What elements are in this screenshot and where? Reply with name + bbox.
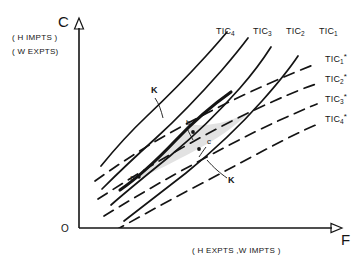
curve-tic-3-star	[104, 104, 317, 216]
curve-label-tic-3-star: TIC3*	[325, 93, 347, 106]
point-dot-c	[197, 147, 201, 151]
y-axis-letter: C	[58, 14, 69, 29]
curve-label-tic-1-sub: 1	[334, 30, 338, 37]
curve-label-tic-1-star-text: TIC	[325, 54, 340, 64]
curve-label-tic-3-sub: 3	[268, 30, 272, 37]
curve-label-tic-2-sub: 2	[301, 30, 305, 37]
point-label-a: a	[130, 174, 134, 182]
curve-label-tic-2-star-sup: *	[344, 72, 347, 81]
contract-curve-label-bottom: K	[228, 176, 235, 185]
foreign-tic-curves	[95, 65, 318, 231]
curve-label-tic-2-text: TIC	[286, 26, 301, 36]
curve-tic-3	[102, 38, 248, 189]
trade-indifference-diagram: C ( H IMPTS ) ( W EXPTS) O F ( H EXPTS ,…	[0, 0, 363, 268]
curve-label-tic-4-text: TIC	[216, 26, 231, 36]
curve-label-tic-1: TIC1	[319, 27, 338, 38]
curve-label-tic-2: TIC2	[286, 27, 305, 38]
curve-label-tic-4-star: TIC4*	[325, 113, 347, 126]
x-axis-caption: ( H EXPTS ,W IMPTS )	[192, 247, 281, 255]
x-axis-letter: F	[341, 232, 351, 247]
curve-label-tic-2-star: TIC2*	[325, 73, 347, 86]
curve-label-tic-4: TIC4	[216, 27, 235, 38]
curve-label-tic-1-star: TIC1*	[325, 53, 347, 66]
origin-letter: O	[61, 224, 69, 234]
curve-label-tic-4-sub: 4	[231, 30, 235, 37]
curve-label-tic-4-star-sup: *	[344, 112, 347, 121]
curve-label-tic-3-star-sup: *	[344, 92, 347, 101]
point-dot-b	[191, 130, 195, 134]
curve-label-tic-3: TIC3	[253, 27, 272, 38]
point-dot-a	[137, 175, 140, 178]
curve-label-tic-4-star-text: TIC	[325, 114, 340, 124]
curve-label-tic-3-star-text: TIC	[325, 94, 340, 104]
y-axis-caption-line-2: ( W EXPTS)	[12, 48, 59, 56]
shaded-core-region	[133, 112, 250, 181]
point-label-c: c	[207, 138, 211, 146]
curve-label-tic-1-text: TIC	[319, 26, 334, 36]
curve-label-tic-1-star-sup: *	[344, 52, 347, 61]
curve-label-tic-3-text: TIC	[253, 26, 268, 36]
y-axis-caption-line-1: ( H IMPTS )	[12, 34, 58, 42]
curve-label-tic-2-star-text: TIC	[325, 74, 340, 84]
contract-curve-label-top: K	[151, 86, 158, 95]
point-label-b: b	[186, 119, 190, 127]
